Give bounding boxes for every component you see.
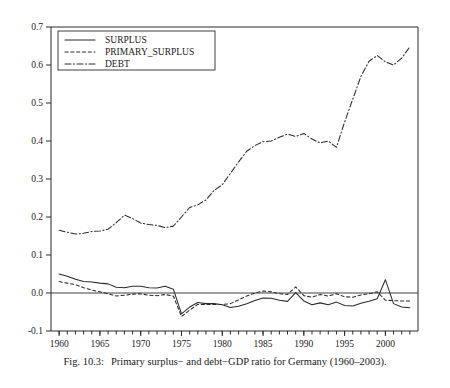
- figure-caption-text: Primary surplus− and debt−GDP ratio for …: [111, 356, 387, 367]
- y-tick-label-0.0: 0.0: [31, 288, 43, 298]
- figure-container: 0.70.60.50.40.30.20.10.0-0.1 19601965197…: [0, 0, 450, 388]
- x-tick-label-1995: 1995: [335, 339, 354, 349]
- x-tick-label-1965: 1965: [90, 339, 109, 349]
- legend-label-surplus: SURPLUS: [105, 35, 147, 45]
- y-tick-label-0.2: 0.2: [31, 212, 43, 222]
- chart-legend: SURPLUSPRIMARY_SURPLUSDEBT: [58, 31, 215, 70]
- figure-caption: Fig. 10.3:Primary surplus− and debt−GDP …: [0, 356, 450, 367]
- x-axis-minor-ticks: [59, 331, 410, 335]
- series-line-primary_surplus: [59, 282, 410, 317]
- y-tick-label-0.5: 0.5: [31, 98, 43, 108]
- x-tick-label-2000: 2000: [376, 339, 395, 349]
- x-tick-label-1990: 1990: [294, 339, 313, 349]
- x-tick-label-1975: 1975: [172, 339, 191, 349]
- x-tick-label-1970: 1970: [131, 339, 150, 349]
- series-line-debt: [59, 47, 410, 234]
- x-tick-label-1980: 1980: [213, 339, 232, 349]
- chart-plot-area: 0.70.60.50.40.30.20.10.0-0.1 19601965197…: [0, 0, 450, 352]
- x-tick-label-1960: 1960: [50, 339, 69, 349]
- y-tick-label-0.3: 0.3: [31, 174, 43, 184]
- line-chart: 0.70.60.50.40.30.20.10.0-0.1 19601965197…: [0, 0, 450, 352]
- x-tick-label-1985: 1985: [254, 339, 273, 349]
- data-series-group: [59, 47, 410, 317]
- y-tick-label-0.7: 0.7: [31, 22, 43, 32]
- legend-label-primary_surplus: PRIMARY_SURPLUS: [105, 47, 194, 57]
- legend-label-debt: DEBT: [105, 59, 130, 69]
- y-tick-label-0.4: 0.4: [31, 136, 43, 146]
- y-axis-ticks: 0.70.60.50.40.30.20.10.0-0.1: [28, 22, 51, 336]
- y-tick-label-0.1: 0.1: [31, 250, 43, 260]
- y-tick-label-0.6: 0.6: [31, 60, 43, 70]
- y-tick-label--0.1: -0.1: [28, 326, 43, 336]
- figure-number: Fig. 10.3:: [63, 356, 104, 367]
- series-line-surplus: [59, 274, 410, 314]
